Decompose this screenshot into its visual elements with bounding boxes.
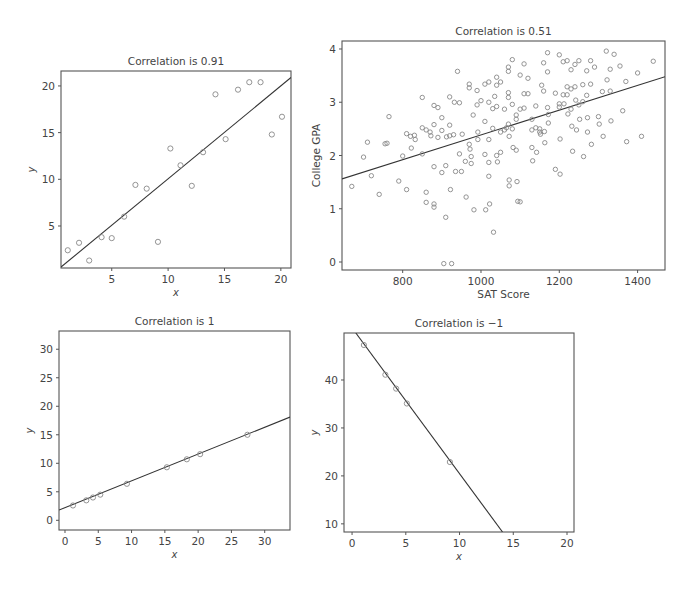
y-tick-label: 20: [40, 400, 53, 412]
regression-line: [356, 333, 503, 532]
y-tick-label: 15: [40, 429, 53, 441]
data-point: [400, 154, 404, 158]
x-tick-label: 10: [125, 535, 138, 547]
data-point: [235, 87, 240, 92]
data-point: [469, 154, 473, 158]
x-tick-label: 15: [507, 537, 520, 549]
y-tick-label: 10: [42, 173, 55, 185]
data-point: [585, 115, 589, 119]
x-axis-label: x: [171, 549, 178, 560]
y-tick-label: 2: [329, 150, 336, 162]
data-point: [76, 240, 81, 245]
data-point: [479, 98, 483, 102]
data-point: [467, 142, 471, 146]
data-point: [541, 89, 545, 93]
data-point: [420, 95, 424, 99]
data-point: [494, 75, 498, 79]
data-point: [530, 145, 534, 149]
data-point: [584, 93, 588, 97]
data-point: [413, 137, 417, 141]
x-tick-label: 10: [453, 537, 466, 549]
scatter-chart-4: Correlation is −10510152010203040xy: [309, 317, 574, 562]
data-point: [546, 121, 550, 125]
data-point: [133, 182, 138, 187]
data-point: [608, 89, 612, 93]
data-point: [361, 155, 365, 159]
y-tick-label: 20: [325, 470, 338, 482]
data-point: [487, 100, 491, 104]
data-point: [573, 85, 577, 89]
data-point: [223, 137, 228, 142]
data-point: [487, 174, 491, 178]
data-point: [581, 82, 585, 86]
data-point: [440, 115, 444, 119]
data-point: [144, 186, 149, 191]
data-point: [592, 65, 596, 69]
data-point: [581, 154, 585, 158]
y-tick-label: 15: [42, 127, 55, 139]
data-point: [502, 107, 506, 111]
data-point: [506, 65, 510, 69]
data-point: [506, 95, 510, 99]
data-point: [574, 128, 578, 132]
data-point: [596, 114, 600, 118]
data-point: [168, 146, 173, 151]
data-point: [545, 51, 549, 55]
data-point: [534, 150, 538, 154]
data-point: [608, 67, 612, 71]
data-point: [487, 137, 491, 141]
data-point: [475, 103, 479, 107]
data-point: [432, 122, 436, 126]
data-point: [553, 91, 557, 95]
data-point: [588, 82, 592, 86]
data-point: [487, 80, 491, 84]
data-point: [539, 83, 543, 87]
data-point: [471, 113, 475, 117]
data-point: [507, 134, 511, 138]
data-point: [440, 128, 444, 132]
data-point: [99, 235, 104, 240]
data-point: [469, 161, 473, 165]
data-point: [463, 159, 467, 163]
data-point: [612, 52, 616, 56]
y-tick-label: 10: [40, 457, 53, 469]
data-point: [455, 69, 459, 73]
data-point: [350, 184, 354, 188]
x-axis-label: SAT Score: [477, 288, 529, 300]
data-point: [387, 114, 391, 118]
data-point: [464, 195, 468, 199]
data-point: [483, 152, 487, 156]
data-point: [562, 102, 566, 106]
x-tick-label: 25: [225, 535, 238, 547]
y-tick-label: 5: [48, 220, 55, 232]
x-tick-label: 15: [218, 273, 231, 285]
data-point: [494, 104, 498, 108]
data-point: [483, 119, 487, 123]
data-point: [609, 119, 613, 123]
data-point: [87, 258, 92, 263]
data-point: [498, 150, 502, 154]
x-tick-label: 10: [161, 273, 174, 285]
y-tick-label: 0: [46, 514, 53, 526]
data-points: [350, 49, 656, 266]
data-point: [369, 174, 373, 178]
data-point: [574, 98, 578, 102]
data-point: [436, 105, 440, 109]
data-point: [600, 89, 604, 93]
data-point: [605, 78, 609, 82]
data-point: [483, 208, 487, 212]
data-point: [534, 104, 538, 108]
data-point: [530, 159, 534, 163]
data-point: [507, 178, 511, 182]
data-point: [506, 122, 510, 126]
x-tick-label: 800: [393, 275, 413, 287]
data-point: [624, 79, 628, 83]
data-point: [577, 59, 581, 63]
data-point: [447, 95, 451, 99]
data-point: [213, 92, 218, 97]
data-point: [491, 230, 495, 234]
x-tick-label: 5: [108, 273, 115, 285]
y-tick-label: 30: [325, 422, 338, 434]
chart-title: Correlation is 0.91: [128, 55, 224, 67]
data-point: [491, 126, 495, 130]
